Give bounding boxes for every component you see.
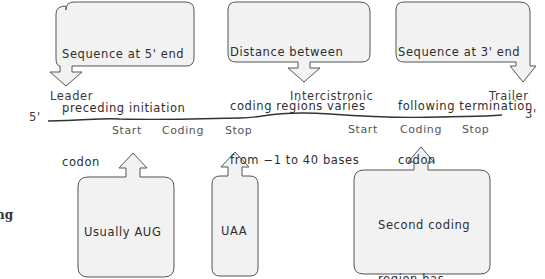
- callout-second-coding-line-2: region has: [378, 270, 483, 279]
- callout-intercistronic-line-3: from −1 to 40 bases: [230, 151, 366, 169]
- callout-trailer-line-1: Sequence at 3' end: [398, 43, 533, 61]
- strand-5prime-label: 5': [29, 110, 41, 124]
- callout-start-line-1: Usually AUG: [84, 223, 161, 241]
- second-start-label: Start: [348, 123, 378, 136]
- callout-start-text: Usually AUG can be GUG or UUG: [84, 187, 161, 279]
- first-start-label: Start: [112, 124, 142, 137]
- callout-leader-line-3: codon: [62, 153, 185, 171]
- callout-trailer-line-3: codon: [398, 151, 533, 169]
- cropped-text-fragment: ng: [0, 208, 13, 222]
- region-label-leader: Leader: [50, 89, 93, 103]
- second-stop-label: Stop: [462, 123, 489, 136]
- callout-leader-line-1: Sequence at 5' end: [62, 45, 185, 63]
- first-stop-label: Stop: [225, 124, 252, 137]
- region-label-trailer: Trailer: [489, 89, 529, 103]
- callout-stop-text: UAA or UAG or UGA: [221, 186, 248, 279]
- second-coding-label: Coding: [400, 123, 442, 136]
- region-label-intercistronic: Intercistronic: [290, 89, 373, 103]
- callout-stop-line-1: UAA: [221, 222, 248, 240]
- first-coding-label: Coding: [162, 124, 204, 137]
- callout-second-coding-text: Second coding region has similar structu…: [378, 180, 483, 279]
- callout-second-coding-line-1: Second coding: [378, 216, 483, 234]
- callout-intercistronic-line-1: Distance between: [230, 43, 366, 61]
- strand-3prime-label: 3': [525, 107, 537, 121]
